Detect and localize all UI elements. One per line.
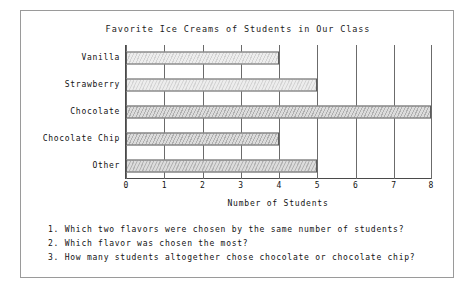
bar-chocolate[interactable]: [126, 105, 431, 118]
x-tick-4: 4: [277, 182, 282, 190]
x-tick-3: 3: [238, 182, 243, 190]
plot-area: Vanilla Strawberry Chocolate Chocolate C…: [125, 45, 431, 179]
x-tick-7: 7: [391, 182, 396, 190]
question-2: 2. Which flavor was chosen the most?: [48, 237, 448, 251]
bar-other[interactable]: [126, 159, 317, 172]
question-1: 1. Which two flavors were chosen by the …: [48, 223, 448, 237]
x-tick-6: 6: [353, 182, 358, 190]
x-tick-0: 0: [124, 182, 129, 190]
x-axis-label: Number of Students: [125, 199, 431, 208]
bar-chocolate-chip[interactable]: [126, 132, 279, 145]
chart-title: Favorite Ice Creams of Students in Our C…: [21, 24, 455, 34]
x-tick-8: 8: [429, 182, 434, 190]
y-label-strawberry: Strawberry: [65, 81, 120, 89]
x-tick-2: 2: [200, 182, 205, 190]
y-label-chocolate-chip: Chocolate Chip: [43, 135, 120, 143]
question-3: 3. How many students altogether chose ch…: [48, 251, 448, 265]
bar-chart: Vanilla Strawberry Chocolate Chocolate C…: [21, 45, 455, 195]
bar-strawberry[interactable]: [126, 79, 317, 92]
x-tick-5: 5: [315, 182, 320, 190]
y-label-chocolate: Chocolate: [70, 108, 120, 116]
x-tick-1: 1: [162, 182, 167, 190]
y-label-other: Other: [92, 162, 120, 170]
y-label-vanilla: Vanilla: [81, 54, 120, 62]
worksheet-card: Favorite Ice Creams of Students in Our C…: [20, 10, 454, 278]
bar-vanilla[interactable]: [126, 52, 279, 65]
questions-list: 1. Which two flavors were chosen by the …: [48, 223, 448, 265]
gridline-8: [431, 45, 432, 179]
